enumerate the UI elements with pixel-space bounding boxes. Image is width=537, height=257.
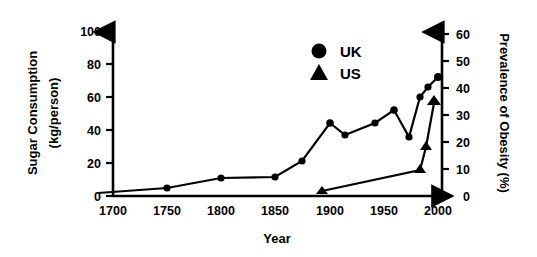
left-tick-label-80: 80	[87, 58, 101, 72]
uk-point-1900	[326, 119, 334, 127]
legend-triangle-icon	[310, 64, 328, 80]
y-axis-title-line1: Sugar Consumption	[25, 51, 40, 175]
uk-point-1965	[405, 133, 412, 140]
right-tick-label-60: 60	[456, 28, 470, 42]
left-tick-label-20: 20	[87, 157, 101, 171]
right-tick-label-10: 10	[456, 163, 470, 177]
uk-point-1955	[390, 106, 398, 114]
left-tick-label-60: 60	[87, 91, 101, 105]
us-point-1978	[414, 164, 426, 173]
us-line	[322, 103, 434, 191]
uk-point-1980	[416, 93, 423, 100]
legend-label-us: US	[340, 65, 361, 82]
uk-point-1990	[424, 83, 431, 90]
us-point-1988	[420, 141, 432, 150]
series-us	[316, 95, 441, 194]
left-tick-label-40: 40	[87, 124, 101, 138]
x-tick-label-1700: 1700	[99, 204, 127, 218]
uk-line	[98, 77, 438, 193]
x-axis-title: Year	[263, 231, 290, 246]
right-y-ticks: 0 10 20 30 40 50 60	[442, 28, 470, 204]
chart-container: 0 20 40 60 80 100 0 10 20 30 40 50 60 17	[0, 0, 537, 257]
x-tick-label-1850: 1850	[261, 204, 289, 218]
uk-point-1875	[298, 157, 305, 164]
uk-point-1800	[217, 174, 224, 181]
x-tick-labels: 1700 1750 1800 1850 1900 1950 2000	[99, 204, 452, 218]
x-tick-label-2000: 2000	[424, 204, 452, 218]
legend: UK US	[310, 43, 362, 82]
x-tick-label-1900: 1900	[316, 204, 344, 218]
left-y-ticks: 0 20 40 60 80 100	[80, 25, 113, 204]
left-tick-label-100: 100	[80, 25, 101, 39]
uk-point-1750	[163, 184, 170, 191]
uk-point-1998	[434, 73, 442, 81]
right-tick-label-20: 20	[456, 136, 470, 150]
right-tick-label-30: 30	[456, 109, 470, 123]
uk-point-1915	[341, 131, 348, 138]
legend-circle-icon	[312, 44, 327, 59]
right-tick-label-40: 40	[456, 82, 470, 96]
legend-label-uk: UK	[340, 43, 362, 60]
x-tick-label-1950: 1950	[370, 204, 398, 218]
y-axis-title-line2: (kg/person)	[46, 78, 61, 149]
uk-point-1935	[371, 119, 378, 126]
right-tick-label-50: 50	[456, 55, 470, 69]
x-tick-label-1750: 1750	[153, 204, 181, 218]
uk-point-1850	[271, 173, 278, 180]
sugar-obesity-line-chart: 0 20 40 60 80 100 0 10 20 30 40 50 60 17	[0, 0, 537, 257]
x-tick-label-1800: 1800	[207, 204, 235, 218]
y2-axis-title: Prevalence of Obesity (%)	[497, 33, 512, 193]
us-point-1998	[427, 95, 441, 105]
series-uk	[98, 73, 442, 193]
right-tick-label-0: 0	[463, 190, 470, 204]
